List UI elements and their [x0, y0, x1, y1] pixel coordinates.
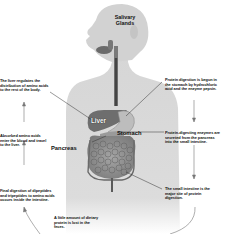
label-liver: Liver	[91, 117, 106, 124]
note-small-intestine: The small intestine is the major site of…	[165, 187, 210, 201]
note-absorbed-amino-acids: Absorbed amino acids enter the blood and…	[0, 134, 46, 148]
label-pancreas: Pancreas	[51, 145, 77, 151]
note-pancreas-enzymes: Protein-digesting enzymes are secreted f…	[165, 131, 220, 145]
parotid-gland-shape	[108, 40, 113, 50]
ear	[130, 25, 138, 39]
label-stomach: Stomach	[117, 130, 141, 136]
protein-digestion-diagram: Salivary Glands Liver Stomach Pancreas T…	[0, 0, 234, 234]
note-stomach-digestion: Protein digestion is begun in the stomac…	[165, 78, 217, 92]
note-final-digestion: Final digestion of dipeptides and tripep…	[0, 189, 55, 203]
note-feces: A little amount of dietary protein is lo…	[54, 216, 98, 230]
label-salivary-glands: Salivary Glands	[110, 14, 140, 26]
note-liver-regulates: The liver regulates the distribution of …	[0, 79, 48, 93]
